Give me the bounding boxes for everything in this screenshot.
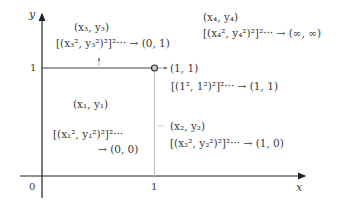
fixed-point-label: (1, 1) (170, 62, 198, 74)
origin-label: 0 (29, 181, 35, 192)
y-tick-1: 1 (30, 62, 36, 73)
region-1-point: (x₁, y₁) (73, 98, 108, 110)
region-1-expression: [(x₁², y₁²)²]²··· (53, 128, 123, 140)
region-4-point: (x₄, y₄) (203, 11, 238, 23)
region-4-expression: [(x₄², y₄²)²]²··· → (∞, ∞) (203, 27, 321, 39)
region-2-point: (x₂, y₂) (170, 120, 205, 132)
region-1-limit: → (0, 0) (98, 143, 138, 155)
x-tick-1: 1 (151, 181, 157, 192)
x-axis-label: x (296, 181, 302, 194)
y-axis-label: y (29, 8, 35, 21)
region-2-expression: [(x₂², y₂²)²]²··· → (1, 0) (170, 137, 284, 149)
fixed-point-marker (152, 65, 158, 71)
region-3-expression: [(x₃², y₃²)²]²··· → (0, 1) (56, 37, 170, 49)
region-3-point: (x₃, y₃) (74, 21, 109, 33)
fixed-point-expression: [(1², 1²)²]²··· → (1, 1) (171, 80, 278, 92)
